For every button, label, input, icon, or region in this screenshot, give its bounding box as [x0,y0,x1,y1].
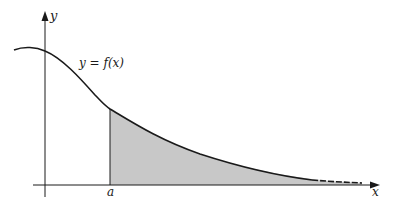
curve-label: y = f(x) [78,56,124,70]
point-a-label: a [107,185,114,199]
y-axis-arrow-icon [42,11,49,21]
y-axis-label: y [49,8,58,23]
diagram-canvas: y x y = f(x) a [0,0,399,212]
shaded-area [110,109,362,185]
x-axis-label: x [372,185,379,199]
